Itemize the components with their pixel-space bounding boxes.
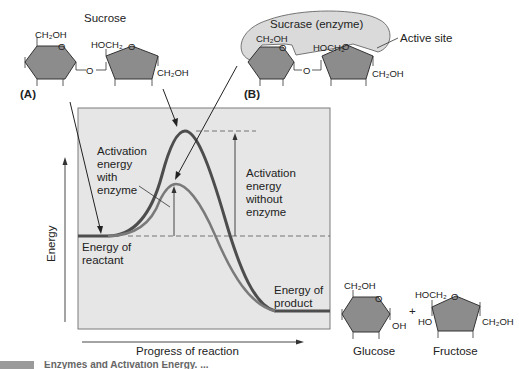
ch2oh-label: CH₂OH <box>157 67 189 78</box>
ring-oxygen-label: O <box>58 41 65 52</box>
glucose-label: Glucose <box>353 345 395 358</box>
hoch2-label: HOCH₂ <box>313 42 345 53</box>
glycosidic-oxygen-label: O <box>86 65 93 76</box>
ring-oxygen-label: O <box>375 293 382 304</box>
ring-oxygen-label: O <box>128 41 135 52</box>
ring-oxygen-label: O <box>451 291 458 302</box>
sucrose-label: Sucrose <box>84 12 126 25</box>
plus-sign: + <box>409 305 416 318</box>
figure-caption-truncated: Enzymes and Activation Energy. ... <box>0 361 519 369</box>
ring-oxygen-label: O <box>342 41 349 52</box>
ch2oh-label: CH₂OH <box>372 68 404 79</box>
active-site-label: Active site <box>400 32 452 45</box>
oh-label: OH <box>392 320 406 331</box>
figure-number-tag <box>0 361 34 369</box>
energy-of-reactant-label: Energy of reactant <box>82 241 131 267</box>
x-axis-label: Progress of reaction <box>136 345 239 358</box>
energy-of-product-label: Energy of product <box>274 284 323 310</box>
hoch2-label: HOCH₂ <box>91 39 123 50</box>
enzyme-label: Sucrase (enzyme) <box>270 18 363 31</box>
ring-oxygen-label: O <box>279 42 286 53</box>
caption-text: Enzymes and Activation Energy. ... <box>44 361 209 369</box>
activation-without-enzyme-label: Activation energy without enzyme <box>246 167 296 219</box>
ch2oh-label: CH₂OH <box>344 280 376 291</box>
energy-axis-arrow <box>63 157 68 322</box>
ch2oh-label: CH₂OH <box>35 29 67 40</box>
glycosidic-oxygen-label: O <box>303 65 310 76</box>
y-axis-label: Energy <box>45 226 58 262</box>
glucopyranose-ring-icon <box>25 46 76 79</box>
ch2oh-label: CH₂OH <box>482 316 514 327</box>
fructose-label: Fructose <box>433 345 478 358</box>
fructose-molecule <box>432 296 480 338</box>
glucose-molecule <box>342 290 390 339</box>
progress-axis-arrow <box>82 340 304 345</box>
ho-label: HO <box>418 316 432 327</box>
panel-a-label: (A) <box>20 88 36 101</box>
hoch2-label: HOCH₂ <box>415 289 447 300</box>
panel-b-label: (B) <box>244 88 260 101</box>
activation-with-enzyme-label: Activation energy with enzyme <box>97 145 147 197</box>
